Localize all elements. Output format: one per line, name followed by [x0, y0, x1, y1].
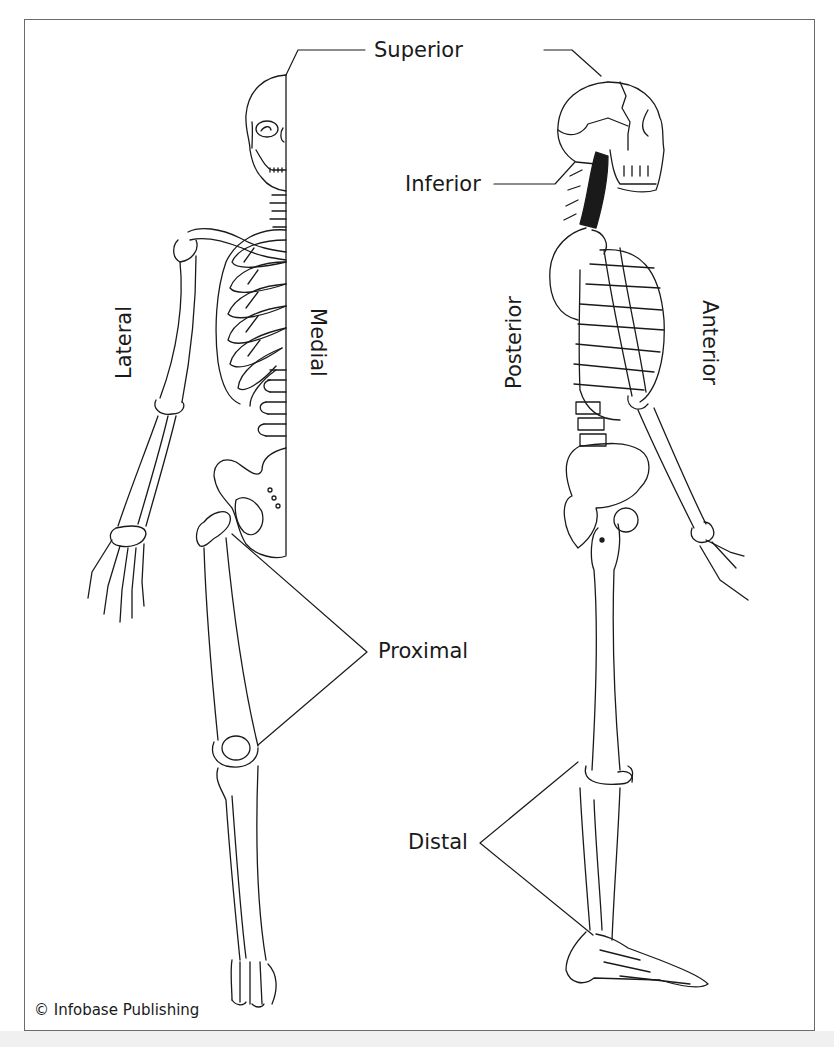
skeleton-illustration — [0, 0, 834, 1047]
superior-leader-left — [286, 50, 365, 75]
superior-leader-right — [544, 50, 601, 76]
distal-leader — [480, 762, 593, 935]
label-lateral: Lateral — [114, 306, 135, 379]
side-skull — [558, 82, 608, 164]
label-proximal: Proximal — [378, 641, 468, 662]
front-half-skeleton — [88, 75, 286, 1007]
label-anterior: Anterior — [699, 300, 720, 385]
proximal-leader — [232, 534, 367, 745]
label-superior: Superior — [374, 40, 463, 61]
lateral-skeleton — [550, 82, 748, 987]
label-distal: Distal — [408, 832, 468, 853]
label-posterior: Posterior — [504, 296, 525, 389]
label-medial: Medial — [307, 308, 328, 377]
credit-text: © Infobase Publishing — [34, 1001, 199, 1019]
label-inferior: Inferior — [405, 174, 481, 195]
inferior-leader — [494, 162, 575, 184]
